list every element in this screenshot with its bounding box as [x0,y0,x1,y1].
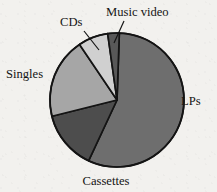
pie-label-singles: Singles [6,67,43,81]
pie-chart-svg: LPsCassettesSinglesCDsMusic video [0,0,217,192]
pie-label-cassettes: Cassettes [83,174,130,188]
pie-chart-figure: LPsCassettesSinglesCDsMusic video [0,0,217,192]
pie-label-cds: CDs [60,15,82,29]
pie-label-lps: LPs [181,94,201,108]
pie-label-music-video: Music video [106,5,169,19]
